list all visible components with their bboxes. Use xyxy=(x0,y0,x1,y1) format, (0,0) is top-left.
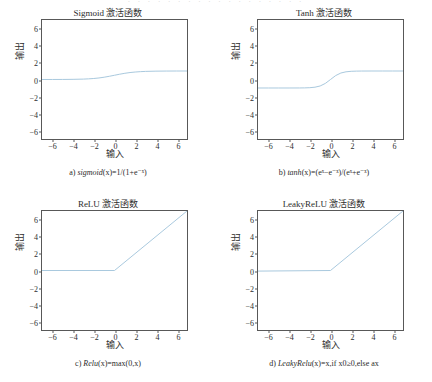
caption-relu: c) Relu(x)=max(0,x) xyxy=(0,359,216,368)
caption-function-name: Relu xyxy=(83,359,98,368)
y-tick-mark xyxy=(39,45,42,46)
y-tick-mark xyxy=(39,219,42,220)
series-path xyxy=(42,71,187,79)
y-tick-label: −2 xyxy=(245,93,254,102)
y-tick-label: −4 xyxy=(245,302,254,311)
y-tick-mark xyxy=(255,306,258,307)
y-tick-label: −6 xyxy=(245,128,254,137)
y-tick-mark xyxy=(255,28,258,29)
y-tick-label: −2 xyxy=(29,93,38,102)
y-tick-label: −4 xyxy=(29,111,38,120)
y-tick-mark xyxy=(255,115,258,116)
panel-title-leakyrelu: LeakyReLU 激活函数 xyxy=(216,197,432,210)
caption-tanh: b) tanh(x)=(eˣ−e⁻ˣ)/(eˣ+e⁻ˣ) xyxy=(216,168,432,177)
caption-formula: (x)=1/(1+e⁻ˣ) xyxy=(103,168,147,177)
series-path xyxy=(258,71,403,88)
y-tick-label: −2 xyxy=(245,284,254,293)
panel-leakyrelu: LeakyReLU 激活函数 输出 −6−4−20246−6−4−20246 输… xyxy=(216,191,432,382)
y-tick-mark xyxy=(39,306,42,307)
caption-formula: (x)=(eˣ−e⁻ˣ)/(eˣ+e⁻ˣ) xyxy=(302,168,370,177)
panel-relu: ReLU 激活函数 输出 −6−4−20246−6−4−20246 输入 c) … xyxy=(0,191,216,382)
y-tick-mark xyxy=(255,254,258,255)
y-tick-label: 6 xyxy=(250,24,254,33)
y-tick-label: 2 xyxy=(34,59,38,68)
y-tick-mark xyxy=(255,271,258,272)
axes-leakyrelu: −6−4−20246−6−4−20246 xyxy=(257,210,404,331)
y-tick-mark xyxy=(39,288,42,289)
y-tick-mark xyxy=(39,28,42,29)
plot-line-relu xyxy=(42,211,187,330)
y-tick-label: 6 xyxy=(34,215,38,224)
activation-functions-figure: · · · · · · · · · · · · · · · · · · Sigm… xyxy=(0,0,432,382)
y-tick-label: 2 xyxy=(250,250,254,259)
y-tick-mark xyxy=(39,115,42,116)
axes-tanh: −6−4−20246−6−4−20246 xyxy=(257,19,404,140)
y-axis-label-tanh: 输出 xyxy=(229,42,242,60)
y-tick-label: 4 xyxy=(250,41,254,50)
plot-line-sigmoid xyxy=(42,20,187,139)
y-tick-label: 6 xyxy=(250,215,254,224)
y-tick-mark xyxy=(255,323,258,324)
y-tick-mark xyxy=(39,271,42,272)
series-path xyxy=(258,211,403,271)
y-tick-label: 4 xyxy=(34,232,38,241)
panel-title-relu: ReLU 激活函数 xyxy=(0,197,216,210)
x-axis-label-relu: 输入 xyxy=(41,338,188,351)
y-tick-label: −6 xyxy=(29,319,38,328)
x-axis-label-tanh: 输入 xyxy=(257,147,404,160)
y-tick-label: −2 xyxy=(29,284,38,293)
y-axis-label-leakyrelu: 输出 xyxy=(229,233,242,251)
y-tick-label: 0 xyxy=(34,76,38,85)
y-tick-mark xyxy=(255,45,258,46)
y-tick-label: 6 xyxy=(34,24,38,33)
panel-tanh: Tanh 激活函数 输出 −6−4−20246−6−4−20246 输入 b) … xyxy=(216,0,432,191)
y-tick-mark xyxy=(255,132,258,133)
y-tick-mark xyxy=(255,236,258,237)
panel-title-tanh: Tanh 激活函数 xyxy=(216,6,432,19)
panel-title-sigmoid: Sigmoid 激活函数 xyxy=(0,6,216,19)
y-tick-mark xyxy=(39,236,42,237)
panel-sigmoid: Sigmoid 激活函数 输出 −6−4−20246−6−4−20246 输入 … xyxy=(0,0,216,191)
y-tick-mark xyxy=(39,132,42,133)
y-axis-label-sigmoid: 输出 xyxy=(13,42,26,60)
axes-relu: −6−4−20246−6−4−20246 xyxy=(41,210,188,331)
y-tick-label: 0 xyxy=(250,76,254,85)
y-tick-mark xyxy=(39,97,42,98)
y-tick-mark xyxy=(255,288,258,289)
y-tick-label: −6 xyxy=(29,128,38,137)
series-path xyxy=(42,211,187,271)
caption-sigmoid: a) sigmoid(x)=1/(1+e⁻ˣ) xyxy=(0,168,216,177)
y-tick-mark xyxy=(255,80,258,81)
caption-formula: (x)=max(0,x) xyxy=(98,359,141,368)
y-tick-label: 4 xyxy=(250,232,254,241)
caption-formula: (x)=x,if x0≥0,else ax xyxy=(312,359,379,368)
y-tick-mark xyxy=(39,323,42,324)
plot-line-tanh xyxy=(258,20,403,139)
y-tick-mark xyxy=(255,63,258,64)
y-tick-mark xyxy=(255,97,258,98)
axes-sigmoid: −6−4−20246−6−4−20246 xyxy=(41,19,188,140)
y-tick-mark xyxy=(39,254,42,255)
y-tick-label: 0 xyxy=(250,267,254,276)
y-tick-label: 2 xyxy=(34,250,38,259)
y-axis-label-relu: 输出 xyxy=(13,233,26,251)
y-tick-label: 0 xyxy=(34,267,38,276)
y-tick-mark xyxy=(255,219,258,220)
y-tick-label: 2 xyxy=(250,59,254,68)
caption-function-name: tanh xyxy=(287,168,301,177)
y-tick-label: 4 xyxy=(34,41,38,50)
x-axis-label-leakyrelu: 输入 xyxy=(257,338,404,351)
caption-function-name: sigmoid xyxy=(77,168,102,177)
y-tick-label: −4 xyxy=(29,302,38,311)
y-tick-label: −4 xyxy=(245,111,254,120)
plot-line-leakyrelu xyxy=(258,211,403,330)
y-tick-mark xyxy=(39,63,42,64)
caption-leakyrelu: d) LeakyRelu(x)=x,if x0≥0,else ax xyxy=(216,359,432,368)
caption-function-name: LeakyRelu xyxy=(278,359,312,368)
x-axis-label-sigmoid: 输入 xyxy=(41,147,188,160)
y-tick-label: −6 xyxy=(245,319,254,328)
caption-prefix: d) xyxy=(269,359,278,368)
y-tick-mark xyxy=(39,80,42,81)
